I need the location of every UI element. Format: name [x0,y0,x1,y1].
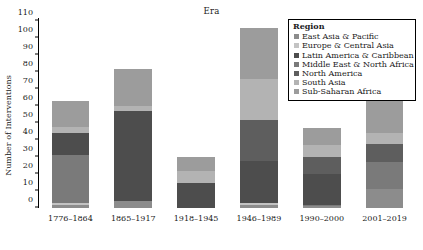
x-tick-label: 1946–1989 [237,214,282,223]
bar-group[interactable]: 2001–2019 [366,94,404,208]
legend-swatch-icon [294,53,299,58]
bar-group[interactable]: 1918–1945 [177,157,215,208]
legend-title: Region [293,22,412,31]
legend-items: East Asia & PacificEurope & Central Asia… [292,32,412,96]
y-tick-mark-0 [35,207,38,208]
y-tick-mark-80 [35,71,38,72]
legend-swatch-icon [294,89,299,94]
bar-segment[interactable] [366,144,404,163]
y-axis-label-text: Number of Interventions [4,75,13,176]
y-tick-mark-60 [35,105,38,106]
y-tick-label-100: 100 [18,26,38,34]
y-tick-label-60: 60 [23,94,38,102]
legend-item[interactable]: North America [292,69,412,78]
y-tick-mark-50 [35,122,38,123]
legend-swatch-icon [294,80,299,85]
legend-item-label: Sub-Saharan Africa [302,87,381,96]
legend-item[interactable]: East Asia & Pacific [292,32,412,41]
legend-swatch-icon [294,71,299,76]
bar-group[interactable]: 1776–1864 [52,101,90,208]
bar-segment[interactable] [303,157,341,174]
bar-segment[interactable] [366,189,404,208]
bar-segment[interactable] [177,157,215,171]
y-tick-label-10: 10 [23,179,38,187]
legend-swatch-icon [294,43,299,48]
bar-segment[interactable] [52,101,90,126]
y-tick-label-50: 50 [23,111,38,119]
bar-segment[interactable] [114,201,152,208]
chart-root: Era Number of Interventions 010203040506… [0,0,423,250]
y-tick-mark-90 [35,54,38,55]
bar-segment[interactable] [303,174,341,205]
bar-segment[interactable] [52,127,90,134]
legend-item-label: Europe & Central Asia [302,41,394,50]
x-tick-label: 1990–2000 [299,214,344,223]
legend-item[interactable]: Europe & Central Asia [292,41,412,50]
legend-item[interactable]: South Asia [292,78,412,87]
x-tick-label: 1776–1864 [48,214,93,223]
y-tick-label-30: 30 [23,145,38,153]
legend-swatch-icon [294,62,299,67]
x-tick-label: 1918–1945 [174,214,219,223]
y-tick-label-40: 40 [23,128,38,136]
bar-segment[interactable] [114,69,152,106]
bar-segment[interactable] [303,206,341,208]
legend-item-label: Middle East & North Africa [302,60,414,69]
bar-segment[interactable] [366,133,404,143]
legend-item-label: South Asia [302,78,346,87]
legend: Region East Asia & PacificEurope & Centr… [288,19,416,101]
bar-group[interactable]: 1865–1917 [114,69,152,208]
legend-item[interactable]: Latin America & Caribbean [292,51,412,60]
y-tick-mark-10 [35,190,38,191]
y-tick-label-110: 110 [18,9,38,17]
bar-segment[interactable] [240,28,278,79]
bar-segment[interactable] [52,205,90,208]
y-tick-label-70: 70 [23,77,38,85]
y-axis-label: Number of Interventions [2,0,14,250]
y-tick-label-0: 0 [28,196,38,204]
bar-segment[interactable] [303,145,341,157]
bar-segment[interactable] [240,205,278,208]
legend-item-label: East Asia & Pacific [302,32,379,41]
legend-item-label: Latin America & Caribbean [302,51,414,60]
y-tick-mark-30 [35,156,38,157]
bar-segment[interactable] [240,120,278,161]
y-tick-mark-100 [35,37,38,38]
bar-segment[interactable] [303,128,341,145]
bar-group[interactable]: 1990–2000 [303,128,341,208]
y-tick-mark-70 [35,88,38,89]
bar-group[interactable]: 1946–1989 [240,28,278,208]
y-tick-mark-20 [35,173,38,174]
legend-item[interactable]: Middle East & North Africa [292,60,412,69]
y-tick-label-80: 80 [23,60,38,68]
bar-segment[interactable] [177,171,215,183]
bar-segment[interactable] [114,111,152,201]
bar-segment[interactable] [52,155,90,203]
legend-swatch-icon [294,34,299,39]
bar-segment[interactable] [177,183,215,208]
bar-segment[interactable] [52,133,90,155]
bar-segment[interactable] [240,161,278,203]
bar-segment[interactable] [240,79,278,120]
bar-segment[interactable] [366,162,404,189]
y-tick-label-90: 90 [23,43,38,51]
y-tick-mark-110 [35,20,38,21]
x-tick-label: 2001–2019 [362,214,407,223]
chart-title: Era [0,6,423,16]
legend-item-label: North America [302,69,362,78]
y-tick-mark-40 [35,139,38,140]
y-tick-label-20: 20 [23,162,38,170]
x-tick-label: 1865–1917 [111,214,156,223]
legend-item[interactable]: Sub-Saharan Africa [292,87,412,96]
